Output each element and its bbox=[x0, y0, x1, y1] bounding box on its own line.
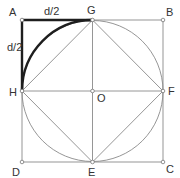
point-e-marker bbox=[91, 160, 95, 164]
point-d-marker bbox=[20, 160, 24, 164]
label-f: F bbox=[168, 85, 175, 97]
point-h-marker bbox=[20, 89, 24, 93]
point-f-marker bbox=[161, 89, 165, 93]
label-top-dimension: d/2 bbox=[44, 5, 59, 17]
point-b-marker bbox=[161, 18, 165, 22]
label-h: H bbox=[9, 86, 17, 98]
label-e: E bbox=[88, 166, 95, 178]
point-o-marker bbox=[91, 89, 95, 93]
point-g-marker bbox=[91, 18, 95, 22]
point-a-marker bbox=[20, 18, 24, 22]
label-o: O bbox=[97, 92, 106, 104]
geometry-diagram: A B C D E F G H O d/2 d/2 bbox=[0, 0, 180, 178]
label-left-dimension: d/2 bbox=[7, 41, 22, 53]
label-b: B bbox=[166, 6, 173, 18]
point-c-marker bbox=[161, 160, 165, 164]
label-c: C bbox=[166, 163, 174, 175]
label-d: D bbox=[12, 166, 20, 178]
label-g: G bbox=[87, 4, 96, 16]
label-a: A bbox=[9, 6, 17, 18]
